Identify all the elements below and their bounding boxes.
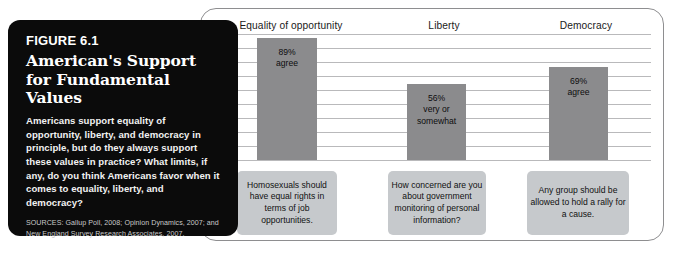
figure-sources: SOURCES: Gallup Poll, 2008; Opinion Dyna… <box>26 218 222 240</box>
column-header-democracy: Democracy <box>521 20 651 31</box>
chart-column-liberty: Liberty 56% very or somewhat How concern… <box>373 9 515 242</box>
figure-number-label: FIGURE 6.1 <box>26 34 222 48</box>
bar-value-line2: agree <box>276 58 298 68</box>
bar-value-line1: 69% <box>570 76 587 86</box>
chart-column-democracy: Democracy 69% agree Any group should be … <box>521 9 651 242</box>
column-header-liberty: Liberty <box>373 20 515 31</box>
bar-value-equality: 89% agree <box>257 47 317 70</box>
bar-liberty: 56% very or somewhat <box>407 84 466 160</box>
bar-value-line2: very or <box>423 104 449 114</box>
bar-equality: 89% agree <box>257 38 317 160</box>
chart-panel: Equality of opportunity 89% agree Homose… <box>200 8 664 241</box>
bar-value-democracy: 69% agree <box>549 76 608 99</box>
bar-value-liberty: 56% very or somewhat <box>407 93 466 127</box>
question-text-democracy: Any group should be allowed to hold a ra… <box>530 185 626 220</box>
figure-description: Americans support equality of opportunit… <box>26 114 222 209</box>
figure-title: American's Support for Fundamental Value… <box>26 52 222 107</box>
bar-value-line3: somewhat <box>417 116 456 126</box>
bar-value-line1: 56% <box>428 93 445 103</box>
bar-value-line2: agree <box>568 87 590 97</box>
bar-democracy: 69% agree <box>549 67 608 160</box>
question-box-democracy: Any group should be allowed to hold a ra… <box>527 171 629 235</box>
question-text-liberty: How concerned are you about government m… <box>391 180 483 227</box>
question-box-liberty: How concerned are you about government m… <box>388 171 486 235</box>
bar-value-line1: 89% <box>278 47 295 57</box>
question-text-equality: Homosexuals should have equal rights in … <box>240 180 334 227</box>
figure-caption-box: FIGURE 6.1 American's Support for Fundam… <box>8 20 238 236</box>
question-box-equality: Homosexuals should have equal rights in … <box>237 171 337 235</box>
